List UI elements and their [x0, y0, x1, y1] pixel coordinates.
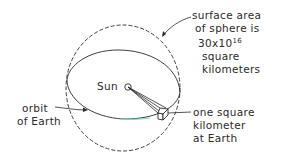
sphere-area-line1: surface area: [192, 9, 261, 22]
orbit-label-line2: of Earth: [17, 115, 61, 128]
sphere-area-line5: kilometers: [202, 63, 261, 76]
sphere-area-value: 30x1016: [198, 35, 261, 50]
sphere-area-label: surface area of sphere is 30x1016 square…: [192, 9, 261, 76]
orbit-label: orbit of Earth: [17, 102, 61, 128]
arrow-head-icon: [162, 31, 166, 37]
unit-area-label: one square kilometer at Earth: [193, 106, 255, 145]
sphere-area-value-exponent: 16: [232, 37, 242, 45]
unit-area-box: [158, 108, 168, 120]
sun-label: Sun: [97, 80, 118, 92]
sphere-outline: [66, 25, 180, 151]
sphere-area-line2: of sphere is: [195, 22, 261, 35]
sphere-area-line4: square: [202, 50, 261, 63]
sphere-label-leader: [163, 17, 191, 36]
unit-area-line2: kilometer: [193, 119, 255, 132]
unit-area-line1: one square: [193, 106, 255, 119]
unit-area-leader: [168, 112, 191, 113]
sphere-area-value-base: 30x10: [198, 37, 232, 49]
orbit-label-line1: orbit: [22, 102, 61, 115]
unit-area-line3: at Earth: [193, 132, 255, 145]
